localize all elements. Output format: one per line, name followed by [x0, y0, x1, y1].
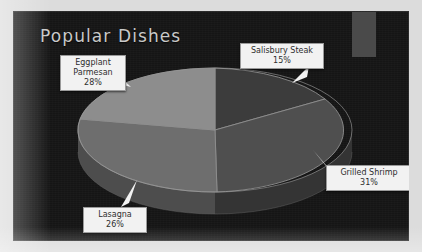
callout-lasagna[interactable]: Lasagna 26%: [83, 207, 147, 233]
callout-grilled-shrimp[interactable]: Grilled Shrimp 31%: [326, 165, 409, 191]
callout-lasagna-name: Lasagna: [88, 210, 142, 220]
callout-salisbury-name: Salisbury Steak: [245, 46, 319, 56]
page-root: Popular Dishes: [0, 0, 422, 252]
callout-lasagna-percent: 26%: [88, 220, 142, 230]
callout-eggplant-name-1: Eggplant: [65, 58, 121, 68]
callout-eggplant-name-2: Parmesan: [65, 68, 121, 78]
pie-chart-3d: [13, 11, 409, 241]
chart-panel: Popular Dishes: [13, 11, 409, 241]
callout-shrimp-name: Grilled Shrimp: [331, 168, 407, 178]
callout-eggplant-parmesan[interactable]: Eggplant Parmesan 28%: [60, 55, 126, 91]
callout-salisbury-steak[interactable]: Salisbury Steak 15%: [240, 43, 324, 69]
callout-salisbury-percent: 15%: [245, 56, 319, 66]
callout-eggplant-percent: 28%: [65, 78, 121, 88]
callout-shrimp-percent: 31%: [331, 178, 407, 188]
